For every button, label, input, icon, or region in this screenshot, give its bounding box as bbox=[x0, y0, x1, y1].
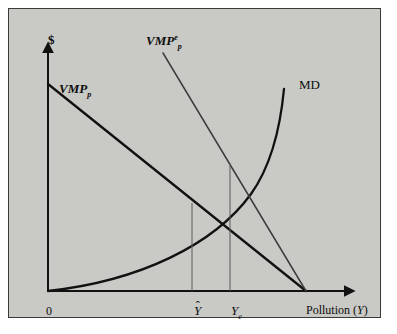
economics-plot bbox=[9, 9, 379, 316]
curve-label-vmp-p-e-subscript: p bbox=[178, 42, 182, 51]
md-curve bbox=[48, 89, 284, 291]
curve-label-vmp-p-e: VMPep bbox=[146, 34, 182, 51]
y-hat-accent: ˆ bbox=[196, 300, 200, 312]
curve-label-md: MD bbox=[299, 78, 320, 91]
curve-label-vmp-p: VMPp bbox=[59, 82, 91, 99]
y-e-subscript: e bbox=[238, 312, 242, 321]
curve-label-vmp-p-e-superscript: e bbox=[174, 33, 178, 42]
x-axis-label-close: ) bbox=[364, 303, 368, 317]
x-axis-label-text: Pollution ( bbox=[306, 303, 357, 317]
origin-label: 0 bbox=[46, 305, 52, 317]
figure-frame: $ VMPp VMPep MD 0 ˆY Ye Pollution (Y) bbox=[8, 8, 381, 318]
y-axis-label: $ bbox=[48, 33, 55, 46]
x-axis-label-variable: Y bbox=[357, 303, 364, 317]
curve-label-vmp-p-subscript: p bbox=[87, 90, 91, 99]
x-tick-label-y-hat: ˆY bbox=[194, 304, 201, 317]
curve-label-vmp-p-base: VMP bbox=[59, 81, 87, 96]
vmp-p-line bbox=[48, 84, 306, 291]
curve-label-vmp-p-e-base: VMP bbox=[146, 33, 174, 48]
x-axis-label: Pollution (Y) bbox=[306, 304, 368, 316]
x-tick-label-y-e: Ye bbox=[231, 304, 242, 321]
figure-page: $ VMPp VMPep MD 0 ˆY Ye Pollution (Y) bbox=[0, 0, 397, 334]
